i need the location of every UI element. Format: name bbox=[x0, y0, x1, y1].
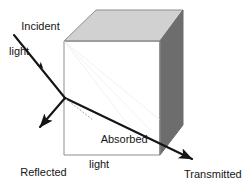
incident-light-label-line2: light bbox=[9, 45, 60, 58]
transmitted-light-label: Transmitted light bbox=[172, 155, 242, 190]
transmitted-light-label-line1: Transmitted bbox=[184, 168, 242, 180]
absorbed-light-label-line1: Absorbed bbox=[101, 133, 148, 145]
reflected-light-label: Reflected light bbox=[8, 153, 67, 190]
incident-light-label-line1: Incident bbox=[21, 20, 60, 32]
absorbed-light-label: Absorbed light bbox=[89, 120, 148, 190]
reflected-ray bbox=[40, 98, 65, 127]
incident-light-label: Incident light bbox=[9, 7, 60, 82]
absorbed-light-label-line2: light bbox=[89, 158, 148, 171]
reflected-light-label-line1: Reflected bbox=[20, 166, 66, 178]
light-interaction-figure: Incident light Reflected light Absorbed … bbox=[0, 0, 243, 190]
